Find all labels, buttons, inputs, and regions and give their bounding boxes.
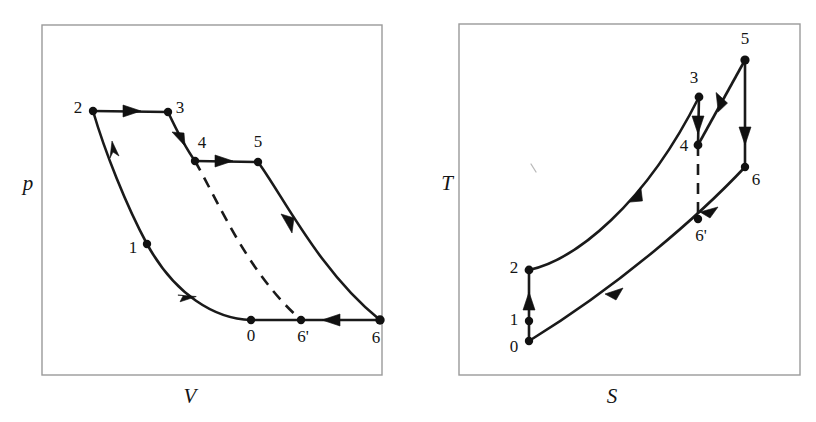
pv-axis-label-p: p <box>21 171 34 195</box>
pv-arrowhead-6-to-0 <box>322 314 340 326</box>
pv-arrowhead-2-to-3 <box>123 105 141 117</box>
ts-label-6: 6 <box>752 170 761 189</box>
ts-label-3: 3 <box>690 68 699 87</box>
pv-node-0 <box>247 316 255 324</box>
ts-arrowhead-1-to-2 <box>523 292 535 310</box>
ts-node-2 <box>525 266 534 275</box>
ts-arrowhead-6prime-to-0 <box>605 288 623 300</box>
pv-axis-label-V: V <box>184 384 199 408</box>
ts-label-6prime: 6' <box>695 226 707 245</box>
ts-diagram-panel: 0 1 2 3 4 5 6 6' T S <box>441 24 800 408</box>
pv-label-3: 3 <box>176 98 185 117</box>
pv-arrowhead-4-to-5 <box>215 155 233 167</box>
ts-node-5 <box>740 55 749 64</box>
pv-node-1 <box>143 240 151 248</box>
pv-node-2 <box>89 107 97 115</box>
scan-artifact-speck <box>531 164 536 172</box>
pv-node-6prime <box>297 316 305 324</box>
pv-curve-0-to-2 <box>93 111 251 320</box>
ts-node-4 <box>694 141 703 150</box>
ts-node-1 <box>525 317 533 325</box>
ts-label-1: 1 <box>510 310 519 329</box>
pv-dashed-4-to-6prime <box>195 161 301 320</box>
pv-node-6 <box>375 315 384 324</box>
ts-node-6prime <box>694 215 702 223</box>
pv-diagram-panel: 0 1 2 3 4 5 6' 6 p V <box>21 25 385 408</box>
pv-label-6prime: 6' <box>297 327 309 346</box>
pv-label-1: 1 <box>129 238 138 257</box>
pv-node-5 <box>254 158 262 166</box>
pv-label-5: 5 <box>254 132 263 151</box>
ts-arrowhead-3-to-4 <box>692 116 704 134</box>
ts-node-6 <box>741 163 749 171</box>
ts-label-4: 4 <box>680 136 689 155</box>
pv-label-6: 6 <box>372 328 381 347</box>
ts-label-5: 5 <box>741 29 750 48</box>
ts-node-3 <box>695 93 704 102</box>
ts-curve-2-to-3 <box>529 97 699 270</box>
pv-label-0: 0 <box>247 326 256 345</box>
thermodynamic-cycle-figure: 0 1 2 3 4 5 6' 6 p V <box>0 0 816 422</box>
pv-label-4: 4 <box>198 133 207 152</box>
ts-axis-label-S: S <box>607 384 618 408</box>
pv-label-2: 2 <box>74 98 83 117</box>
ts-label-2: 2 <box>510 258 519 277</box>
ts-axis-label-T: T <box>441 171 454 195</box>
pv-node-3 <box>164 108 172 116</box>
ts-arrowhead-5-to-6 <box>739 127 751 145</box>
cycle-diagram-svg: 0 1 2 3 4 5 6' 6 p V <box>0 0 816 422</box>
ts-node-0 <box>525 337 533 345</box>
pv-node-4 <box>191 157 199 165</box>
pv-arrowhead-3-to-4 <box>172 132 185 146</box>
ts-label-0: 0 <box>510 337 519 356</box>
pv-arrowhead-1-to-2 <box>110 141 119 158</box>
